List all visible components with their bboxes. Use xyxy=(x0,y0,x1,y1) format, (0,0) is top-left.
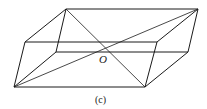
edge-bottom-right-depth xyxy=(145,52,188,87)
edge-right-front xyxy=(145,42,157,87)
parallelepiped-diagram: O (c) xyxy=(0,0,207,109)
edge-bottom-left-depth xyxy=(14,52,56,87)
caption: (c) xyxy=(95,94,106,106)
center-label: O xyxy=(99,53,107,65)
diagonal-2 xyxy=(66,9,145,87)
edge-left-front xyxy=(14,42,25,87)
